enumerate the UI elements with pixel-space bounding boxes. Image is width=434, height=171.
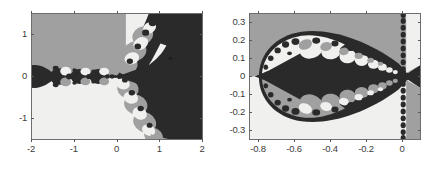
figure-container: -2-101210-1 xyxy=(0,0,434,171)
left-panel-xticklabel-1: -1 xyxy=(70,144,78,154)
right-panel-ytick-2 xyxy=(249,58,252,59)
right-panel-xtick-top-3 xyxy=(366,11,367,14)
left-panel-xticklabel-3: 1 xyxy=(157,144,162,154)
right-panel-yticklabel-2: 0.1 xyxy=(232,53,245,63)
right-panel-plot xyxy=(250,14,420,139)
right-panel-xtick-top-0 xyxy=(258,11,259,14)
right-panel-ytick-1 xyxy=(249,40,252,41)
right-panel-xticklabel-0: -0.8 xyxy=(250,144,266,154)
left-panel-xtick-top-1 xyxy=(74,11,75,14)
left-panel-ytick-right-0 xyxy=(200,34,203,35)
right-panel-xtick-2 xyxy=(330,139,331,142)
left-panel-xtick-top-2 xyxy=(117,11,118,14)
left-panel-xtick-4 xyxy=(202,139,203,142)
right-panel-xtick-top-1 xyxy=(294,11,295,14)
right-panel-yticklabel-0: 0.3 xyxy=(232,17,245,27)
right-panel-ytick-right-0 xyxy=(418,22,421,23)
right-panel-ytick-0 xyxy=(249,22,252,23)
right-panel-ytick-right-4 xyxy=(418,94,421,95)
left-panel-ytick-0 xyxy=(31,34,34,35)
left-panel-xtick-2 xyxy=(117,139,118,142)
right-panel-ytick-right-3 xyxy=(418,76,421,77)
right-panel-xtick-4 xyxy=(402,139,403,142)
left-panel-axes xyxy=(31,13,203,140)
left-panel-yticklabel-1: 0 xyxy=(22,71,27,81)
right-panel-xtick-3 xyxy=(366,139,367,142)
right-panel-xtick-top-2 xyxy=(330,11,331,14)
right-panel-ytick-3 xyxy=(249,76,252,77)
right-panel-ytick-right-2 xyxy=(418,58,421,59)
right-panel-xticklabel-2: -0.4 xyxy=(322,144,338,154)
right-panel-ytick-5 xyxy=(249,112,252,113)
left-panel-plot xyxy=(32,14,202,139)
right-panel-xtick-top-4 xyxy=(402,11,403,14)
right-panel-xtick-1 xyxy=(294,139,295,142)
right-panel-ytick-4 xyxy=(249,94,252,95)
right-panel-ytick-right-5 xyxy=(418,112,421,113)
left-panel-xticklabel-4: 2 xyxy=(199,144,204,154)
right-panel-ytick-right-1 xyxy=(418,40,421,41)
right-panel-axes xyxy=(249,13,421,140)
left-panel-ytick-right-1 xyxy=(200,76,203,77)
right-panel-yticklabel-3: 0 xyxy=(240,71,245,81)
left-panel-xticklabel-0: -2 xyxy=(27,144,35,154)
right-panel-xticklabel-1: -0.6 xyxy=(286,144,302,154)
right-panel: -0.8-0.6-0.4-0.200.30.20.10-0.1-0.2-0.3 xyxy=(217,0,434,171)
left-panel-xtick-1 xyxy=(74,139,75,142)
left-panel: -2-101210-1 xyxy=(0,0,217,171)
right-panel-yticklabel-5: -0.2 xyxy=(229,107,245,117)
right-panel-xticklabel-3: -0.2 xyxy=(358,144,374,154)
left-panel-xtick-0 xyxy=(31,139,32,142)
right-panel-xticklabel-4: 0 xyxy=(399,144,404,154)
left-panel-yticklabel-0: 1 xyxy=(22,29,27,39)
right-panel-ytick-6 xyxy=(249,130,252,131)
right-panel-ytick-right-6 xyxy=(418,130,421,131)
left-panel-ytick-2 xyxy=(31,118,34,119)
left-panel-xticklabel-2: 0 xyxy=(114,144,119,154)
right-panel-yticklabel-4: -0.1 xyxy=(229,89,245,99)
left-panel-ytick-1 xyxy=(31,76,34,77)
right-panel-xtick-0 xyxy=(258,139,259,142)
left-panel-xtick-top-4 xyxy=(202,11,203,14)
left-panel-yticklabel-2: -1 xyxy=(19,113,27,123)
left-panel-ytick-right-2 xyxy=(200,118,203,119)
left-panel-xtick-top-3 xyxy=(159,11,160,14)
left-panel-xtick-3 xyxy=(159,139,160,142)
left-panel-xtick-top-0 xyxy=(31,11,32,14)
right-panel-yticklabel-6: -0.3 xyxy=(229,125,245,135)
right-panel-yticklabel-1: 0.2 xyxy=(232,35,245,45)
